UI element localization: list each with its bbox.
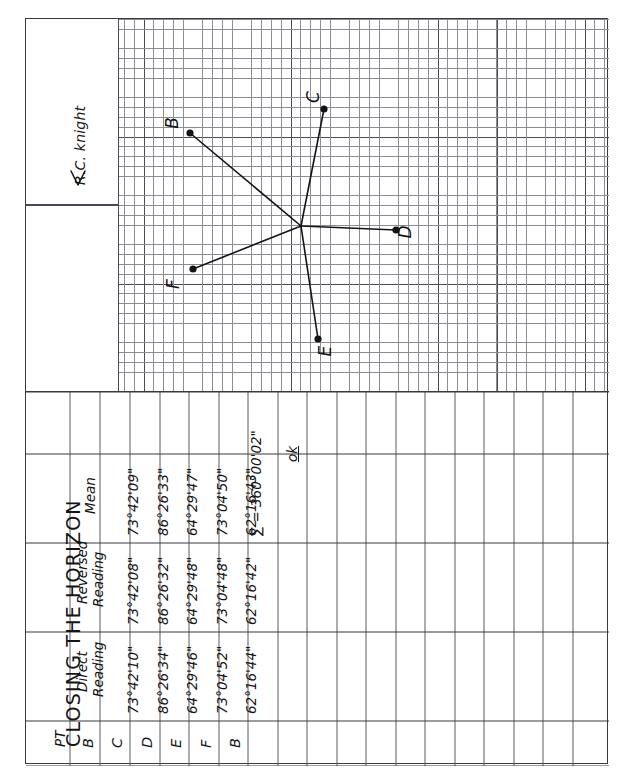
station-point-F	[189, 265, 196, 272]
station-point-B	[186, 129, 193, 136]
column-header-pt: PT	[52, 731, 68, 747]
cell-mean-C-1: 73°42'09"	[125, 468, 141, 536]
station-label-E: E	[315, 345, 335, 356]
cell-direct-F-4: 73°04'52"	[214, 646, 230, 714]
cell-reversed-B-5: 62°16'42"	[243, 557, 259, 625]
cell-direct-E-3: 64°29'46"	[184, 646, 200, 714]
table-row: F	[198, 740, 214, 748]
cell-reversed-F-4: 73°04'48"	[214, 557, 230, 625]
ray-to-E	[301, 226, 318, 339]
table-row: C	[109, 738, 125, 748]
ray-to-C	[301, 109, 324, 226]
station-point-C	[320, 105, 327, 112]
table-title: CLOSING THE HORIZON	[62, 499, 84, 747]
traverse-sketch: BCDEF	[26, 19, 609, 391]
observation-table: CLOSING THE HORIZON PT Direct Reading Re…	[26, 391, 609, 765]
cell-direct-C-1: 73°42'10"	[125, 646, 141, 714]
cell-mean-D-2: 86°26'33"	[155, 468, 171, 536]
cell-reversed-E-3: 64°29'48"	[184, 557, 200, 625]
column-header-reversed-1: Reversed	[74, 541, 90, 604]
cell-direct-D-2: 86°26'34"	[155, 646, 171, 714]
column-header-direct-2: Reading	[90, 642, 106, 697]
cell-mean-E-3: 64°29'47"	[184, 468, 200, 536]
column-header-reversed-2: Reading	[90, 552, 106, 607]
table-row: B	[227, 738, 243, 748]
station-point-E	[314, 335, 321, 342]
station-label-F: F	[163, 279, 183, 289]
table-row: D	[139, 737, 155, 748]
sketch-area: NOV 10, 2003 Cloudy,windy,cool 40°F R.C.…	[26, 19, 609, 391]
ray-to-D	[301, 226, 396, 230]
cell-reversed-D-2: 86°26'32"	[155, 557, 171, 625]
cell-mean-F-4: 73°04'50"	[214, 468, 230, 536]
table-grid-lines	[26, 392, 609, 766]
sum-label: ∑ = 360°00'02"	[248, 430, 264, 536]
column-header-mean: Mean	[82, 477, 98, 514]
field-notebook-page: NOV 10, 2003 Cloudy,windy,cool 40°F R.C.…	[25, 18, 608, 764]
ray-to-F	[193, 226, 301, 269]
station-label-D: D	[395, 225, 415, 238]
cell-direct-B-5: 62°16'44"	[243, 646, 259, 714]
check-note: ok	[284, 446, 300, 462]
table-row: B	[80, 738, 96, 748]
ray-to-B	[190, 133, 301, 226]
station-label-C: C	[303, 91, 323, 103]
cell-reversed-C-1: 73°42'08"	[125, 557, 141, 625]
column-header-direct-1: Direct	[74, 651, 90, 692]
table-row: E	[168, 739, 184, 748]
station-label-B: B	[162, 117, 182, 129]
